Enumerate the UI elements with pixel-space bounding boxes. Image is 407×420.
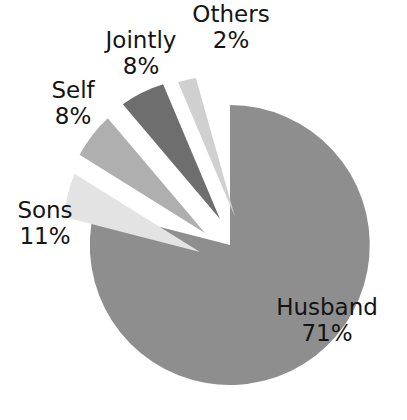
pie-label-self-name: Self bbox=[33, 78, 113, 104]
pie-label-husband-value: 71% bbox=[268, 321, 386, 347]
pie-label-self: Self 8% bbox=[33, 78, 113, 130]
pie-label-jointly-value: 8% bbox=[93, 54, 189, 80]
pie-label-sons-value: 11% bbox=[2, 224, 88, 250]
pie-label-sons-name: Sons bbox=[2, 198, 88, 224]
pie-label-husband-name: Husband bbox=[268, 295, 386, 321]
pie-label-husband: Husband 71% bbox=[268, 295, 386, 347]
pie-label-sons: Sons 11% bbox=[2, 198, 88, 250]
pie-label-others-value: 2% bbox=[183, 28, 279, 54]
pie-label-others: Others 2% bbox=[183, 2, 279, 54]
pie-label-self-value: 8% bbox=[33, 104, 113, 130]
pie-label-others-name: Others bbox=[183, 2, 279, 28]
pie-label-jointly: Jointly 8% bbox=[93, 28, 189, 80]
pie-chart: Others 2% Jointly 8% Self 8% Sons 11% Hu… bbox=[0, 0, 407, 420]
pie-label-jointly-name: Jointly bbox=[93, 28, 189, 54]
